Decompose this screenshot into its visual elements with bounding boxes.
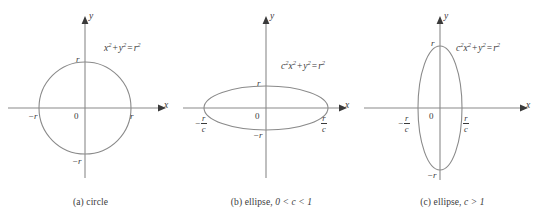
y-axis-label: y — [89, 12, 93, 22]
origin-label: 0 — [74, 112, 79, 121]
fraction-numerator: r — [201, 114, 206, 123]
panel-ellipse-wide: x y 0 − r c r c r −r — [181, 0, 362, 215]
panel-circle: x y 0 −r r r −r x2+y2=r2 (a) circle — [0, 0, 181, 215]
plot-area-ellipse-wide: x y 0 − r c r c r −r — [181, 0, 362, 185]
y-tick-label-top: r — [431, 39, 435, 48]
caption-prefix: (c) — [420, 197, 431, 207]
x-tick-label-right: r c — [463, 114, 469, 133]
plot-area-circle: x y 0 −r r r −r x2+y2=r2 — [0, 0, 181, 185]
x-tick-label-left: − r c — [398, 114, 410, 133]
x-tick-label-right: r — [130, 112, 134, 121]
fraction-stack: r c — [321, 114, 327, 133]
equation-rhs-exponent: 2 — [137, 41, 140, 48]
fraction-numerator: r — [321, 114, 326, 123]
x-tick-label-right: r c — [321, 114, 327, 133]
figure-three-conic-panels: x y 0 −r r r −r x2+y2=r2 (a) circle — [0, 0, 543, 215]
panel-ellipse-tall: x y 0 − r c r c r −r c — [362, 0, 543, 215]
y-tick-label-bottom: −r — [72, 157, 82, 166]
axes-and-curve-ellipse-tall — [362, 0, 543, 185]
fraction-denominator: c — [201, 125, 207, 134]
y-axis-label: y — [444, 12, 448, 22]
fraction-numerator: r — [404, 114, 409, 123]
caption-prefix: (b) — [231, 197, 242, 207]
equation-equals-operator: = — [126, 43, 133, 53]
x-tick-label-left: −r — [28, 112, 38, 121]
y-tick-label-top: r — [257, 79, 261, 88]
fraction-denominator: c — [463, 125, 469, 134]
y-axis-arrowhead-icon — [82, 16, 89, 24]
fraction-minus-sign: − — [195, 119, 200, 128]
equation-rhs-exponent: 2 — [497, 41, 500, 48]
equation-circle: x2+y2=r2 — [104, 44, 141, 54]
equation-ellipse-tall: c2x2+y2=r2 — [456, 44, 500, 54]
equation-ellipse-wide: c2x2+y2=r2 — [281, 62, 325, 72]
y-tick-label-bottom: −r — [427, 171, 437, 180]
y-tick-label-top: r — [76, 55, 80, 64]
caption-ellipse-tall: (c) ellipse, c > 1 — [362, 197, 543, 207]
caption-condition: 0 < c < 1 — [275, 197, 312, 207]
equation-rhs-exponent: 2 — [322, 59, 325, 66]
y-axis-arrowhead-icon — [263, 16, 270, 24]
fraction-minus-sign: − — [398, 119, 403, 128]
axes-and-curve-ellipse-wide — [181, 0, 362, 185]
fraction-numerator: r — [463, 114, 468, 123]
x-axis-label: x — [526, 101, 530, 111]
fraction-stack: r c — [463, 114, 469, 133]
x-axis-label: x — [345, 101, 349, 111]
fraction-denominator: c — [321, 125, 327, 134]
caption-prefix: (a) — [73, 197, 84, 207]
fraction-stack: r c — [404, 114, 410, 133]
y-tick-label-bottom: −r — [253, 131, 263, 140]
y-axis-label: y — [270, 12, 274, 22]
origin-label: 0 — [429, 112, 434, 121]
x-axis-label: x — [164, 101, 168, 111]
caption-text: circle — [86, 197, 108, 207]
caption-circle: (a) circle — [0, 197, 181, 207]
caption-ellipse-wide: (b) ellipse, 0 < c < 1 — [181, 197, 362, 207]
caption-text: ellipse, — [245, 197, 273, 207]
equation-plus-operator: + — [111, 43, 118, 53]
caption-text: ellipse, — [434, 197, 462, 207]
fraction-denominator: c — [404, 125, 410, 134]
caption-condition: c > 1 — [464, 197, 485, 207]
origin-label: 0 — [255, 112, 260, 121]
fraction-stack: r c — [201, 114, 207, 133]
x-tick-label-left: − r c — [195, 114, 207, 133]
y-axis-arrowhead-icon — [437, 16, 444, 24]
axes-and-curve-circle — [0, 0, 181, 185]
plot-area-ellipse-tall: x y 0 − r c r c r −r c — [362, 0, 543, 185]
